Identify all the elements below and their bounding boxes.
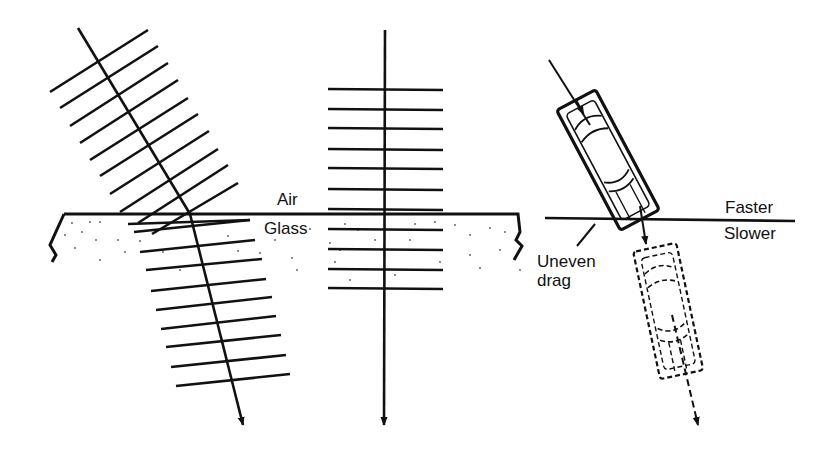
label-slower: Slower [724,225,776,243]
oblique-incident-ray [78,28,243,425]
label-uneven-drag-line1: Uneven [537,253,596,271]
label-glass: Glass [264,220,307,238]
car-path-arrow-in [549,60,590,125]
oblique-wavefronts-air [50,30,238,234]
oblique-wavefronts-glass [128,220,290,386]
refraction-diagram [0,0,829,455]
uneven-drag-pointer [577,224,595,246]
label-air: Air [277,191,298,209]
label-uneven-drag-line2: drag [537,272,571,290]
label-faster: Faster [725,199,773,217]
surface-boundary-line [545,218,795,221]
car-dashed [633,243,703,379]
car-solid [557,90,660,231]
